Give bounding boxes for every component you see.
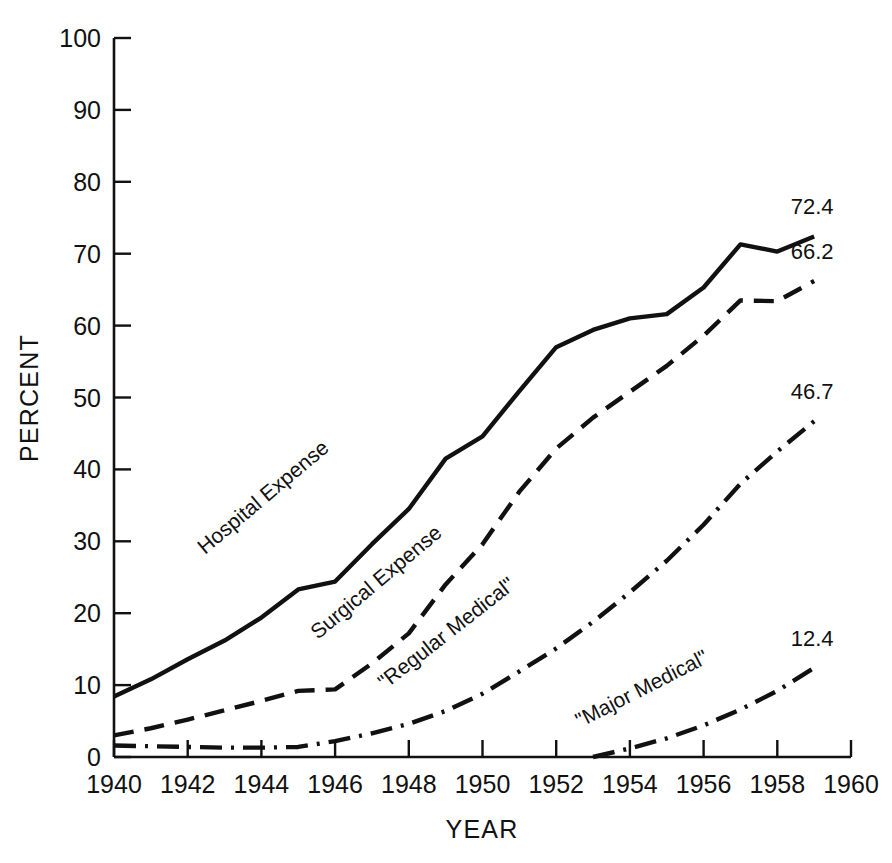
y-tick-label: 80	[73, 168, 101, 196]
x-tick-label: 1954	[602, 770, 658, 798]
line-chart: 0102030405060708090100 19401942194419461…	[0, 0, 892, 863]
x-tick-label: 1946	[307, 770, 363, 798]
y-tick-label: 90	[73, 96, 101, 124]
x-tick-label: 1940	[86, 770, 142, 798]
x-tick-label: 1950	[455, 770, 511, 798]
y-tick-label: 60	[73, 312, 101, 340]
chart-container: 0102030405060708090100 19401942194419461…	[0, 0, 892, 863]
y-tick-label: 100	[59, 24, 101, 52]
y-tick-label: 0	[87, 743, 101, 771]
x-tick-label: 1944	[234, 770, 290, 798]
y-tick-label: 10	[73, 671, 101, 699]
x-tick-label: 1960	[823, 770, 879, 798]
end-value-label-regular-medical: 46.7	[791, 379, 834, 404]
y-axis-title: PERCENT	[15, 334, 43, 462]
x-tick-label: 1958	[749, 770, 805, 798]
end-value-label-major-medical: 12.4	[791, 626, 834, 651]
y-tick-label: 50	[73, 384, 101, 412]
x-tick-label: 1948	[381, 770, 437, 798]
end-value-label-hospital-expense: 72.4	[791, 194, 834, 219]
y-tick-label: 40	[73, 455, 101, 483]
x-axis-tick-labels: 1940194219441946194819501952195419561958…	[86, 770, 879, 798]
x-tick-label: 1956	[676, 770, 732, 798]
y-tick-label: 30	[73, 527, 101, 555]
x-axis-title: YEAR	[446, 815, 519, 843]
end-value-label-surgical-expense: 66.2	[791, 239, 834, 264]
x-tick-label: 1952	[528, 770, 584, 798]
y-tick-label: 20	[73, 599, 101, 627]
x-tick-label: 1942	[160, 770, 216, 798]
y-tick-label: 70	[73, 240, 101, 268]
